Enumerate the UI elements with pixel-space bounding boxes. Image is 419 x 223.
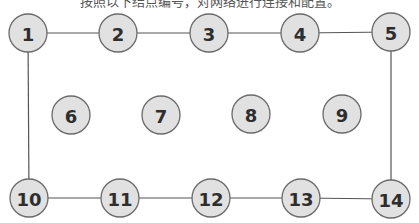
node-label: 12 [198, 189, 223, 210]
node-6: 6 [52, 96, 90, 134]
node-label: 2 [112, 24, 125, 45]
node-label: 1 [22, 24, 35, 45]
node-1: 1 [9, 14, 47, 52]
node-3: 3 [190, 14, 228, 52]
node-label: 3 [203, 24, 216, 45]
node-label: 7 [155, 106, 168, 127]
node-10: 10 [10, 179, 48, 217]
node-12: 12 [192, 179, 230, 217]
node-label: 5 [385, 23, 398, 44]
nodes-layer: 1234567891011121314 [9, 13, 410, 218]
node-13: 13 [282, 179, 320, 217]
node-label: 8 [245, 105, 258, 126]
node-11: 11 [101, 179, 139, 217]
node-label: 14 [378, 190, 403, 211]
node-label: 6 [65, 106, 78, 127]
node-5: 5 [372, 13, 410, 51]
node-label: 11 [107, 189, 132, 210]
edge-1-10 [28, 33, 29, 198]
node-label: 13 [288, 189, 313, 210]
node-2: 2 [99, 14, 137, 52]
node-9: 9 [323, 95, 361, 133]
node-label: 10 [16, 189, 41, 210]
node-label: 4 [294, 24, 307, 45]
node-8: 8 [232, 95, 270, 133]
node-14: 14 [372, 180, 410, 218]
node-4: 4 [281, 14, 319, 52]
node-label: 9 [336, 105, 349, 126]
network-diagram: 1234567891011121314 [0, 0, 419, 223]
node-7: 7 [142, 96, 180, 134]
